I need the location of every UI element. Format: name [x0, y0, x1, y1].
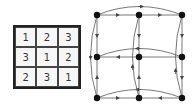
- directed-graph: [0, 0, 194, 107]
